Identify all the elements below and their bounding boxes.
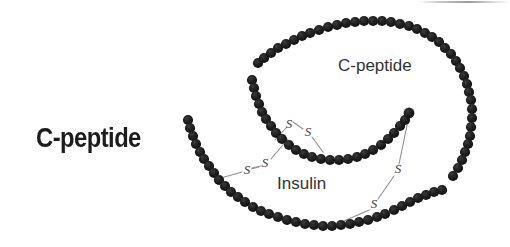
peptide-bead-chains bbox=[183, 16, 477, 231]
c-peptide-inner-label: C-peptide bbox=[338, 57, 412, 74]
chain-insulin-a bbox=[247, 75, 415, 165]
c-peptide-main-label: C-peptide bbox=[36, 125, 141, 152]
sulfur-label-s3: S bbox=[244, 162, 251, 177]
proinsulin-structure-diagram: S S S S S S bbox=[0, 0, 510, 247]
sulfur-label-s5: S bbox=[395, 161, 402, 176]
sulfur-label-s4: S bbox=[262, 155, 269, 170]
sulfur-label-s6: S bbox=[371, 196, 378, 211]
sulfur-label-s2: S bbox=[305, 124, 312, 139]
sulfur-label-s1: S bbox=[286, 116, 293, 131]
insulin-label: Insulin bbox=[277, 175, 326, 192]
chain-insulin-b bbox=[183, 115, 447, 231]
